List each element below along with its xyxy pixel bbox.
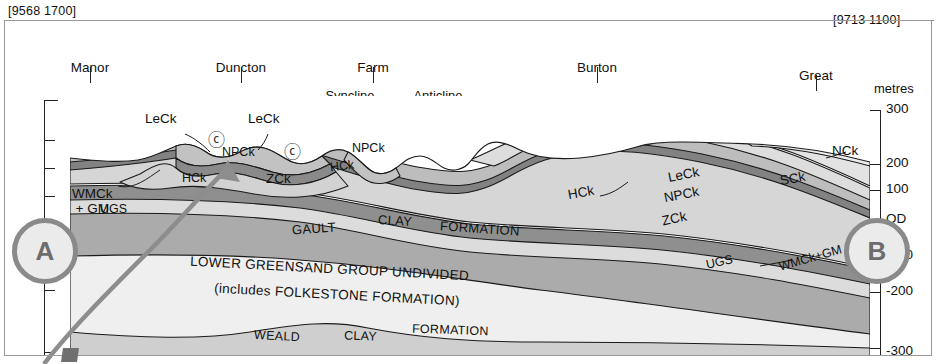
cross-section-figure: [9568 1700] [9713 1100] Manor Farm Dunct… xyxy=(0,0,936,364)
section-end-marker-b: B xyxy=(844,218,910,284)
unit-label-nck-right: NCk xyxy=(832,144,858,159)
formation-label-weald: WEALD xyxy=(254,329,301,345)
unit-label-npck-left: NPCk xyxy=(222,146,255,160)
unit-label-hck-left: HCk xyxy=(182,172,206,186)
unit-label-leck-left-1: LeCk xyxy=(145,112,177,127)
unit-label-ugs-left: UGS xyxy=(100,203,127,217)
unit-label-hck-mid: HCk xyxy=(329,159,355,175)
formation-label-weald-clay: CLAY xyxy=(344,329,377,344)
unit-label-zck-left: ZCk xyxy=(266,172,291,187)
section-end-marker-a-label: A xyxy=(36,236,55,267)
unit-label-npck-mid: NPCk xyxy=(352,142,385,156)
unit-label-leck-left-2: LeCk xyxy=(248,112,280,127)
clay-with-flints-icon-1: ⓒ xyxy=(208,126,225,151)
formation-label-gault-clay: CLAY xyxy=(378,213,413,229)
clay-with-flints-icon-2: ⓒ xyxy=(284,138,301,163)
section-end-marker-b-label: B xyxy=(868,236,887,267)
arrow-tail-mark xyxy=(61,348,79,362)
formation-label-weald-formation: FORMATION xyxy=(412,323,489,339)
section-end-marker-a: A xyxy=(12,218,78,284)
